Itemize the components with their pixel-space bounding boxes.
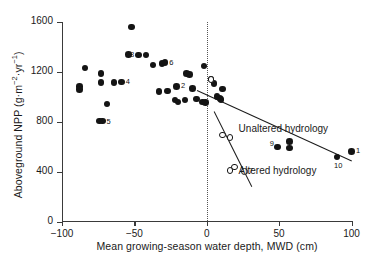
y-tick-label: 1200	[13, 65, 53, 76]
y-tick	[57, 22, 62, 23]
data-point-filled	[189, 85, 196, 92]
data-point-label: 2	[181, 81, 185, 90]
data-point-filled	[334, 154, 341, 161]
data-point-filled	[98, 70, 105, 77]
data-point-filled	[156, 88, 163, 95]
y-tick-label: 400	[13, 165, 53, 176]
data-point-filled	[143, 52, 150, 59]
y-tick-label: 800	[13, 115, 53, 126]
data-point-filled	[111, 79, 118, 86]
data-point-filled	[164, 88, 171, 95]
data-point-open	[227, 134, 234, 141]
data-point-filled	[150, 62, 157, 69]
x-tick	[207, 221, 208, 226]
scatter-chart-figure: Aboveground NPP (g·m−2·yr−1) Mean growin…	[0, 0, 371, 275]
x-tick	[352, 221, 353, 226]
data-point-filled	[135, 52, 142, 59]
data-point-label: 4	[126, 77, 130, 86]
annotation-altered-hydrology: Altered hydrology	[239, 165, 317, 176]
data-point-label: 6	[169, 58, 173, 67]
y-axis-title-sup2: −1	[10, 55, 19, 64]
y-tick	[57, 72, 62, 73]
data-point-label: 10	[334, 161, 342, 170]
data-point-open	[227, 167, 234, 174]
data-point-filled	[286, 145, 293, 152]
data-point-filled	[99, 118, 106, 125]
x-tick	[134, 221, 135, 226]
x-tick-label: 100	[334, 228, 370, 239]
data-point-filled	[286, 138, 293, 145]
data-point-filled	[274, 144, 281, 151]
data-point-open	[219, 132, 226, 139]
data-point-filled	[82, 65, 89, 72]
data-point-filled	[202, 99, 209, 106]
data-point-label: 5	[107, 117, 111, 126]
data-point-filled	[175, 99, 182, 106]
x-axis-title: Mean growing-season water depth, MWD (cm…	[62, 240, 352, 252]
data-point-filled	[98, 79, 105, 86]
data-point-label: 1	[356, 146, 360, 155]
data-point-filled	[182, 97, 189, 104]
y-axis-line	[62, 22, 63, 222]
y-tick	[57, 122, 62, 123]
y-tick	[57, 172, 62, 173]
y-axis-title-post: )	[12, 51, 24, 55]
data-point-filled	[173, 83, 180, 90]
x-tick	[62, 221, 63, 226]
reference-line-x0	[207, 22, 208, 221]
x-tick-label: 50	[261, 228, 297, 239]
data-point-filled	[348, 148, 355, 155]
x-tick	[279, 221, 280, 226]
x-tick-label: 0	[189, 228, 225, 239]
data-point-label: 9	[270, 139, 274, 148]
data-point-filled	[162, 59, 169, 66]
y-axis-title-sup1: −2	[10, 76, 19, 85]
y-tick	[57, 222, 62, 223]
data-point-filled	[118, 79, 125, 86]
data-point-filled	[128, 24, 135, 31]
y-tick-label: 0	[13, 215, 53, 226]
y-tick-label: 1600	[13, 15, 53, 26]
x-tick-label: −100	[44, 228, 80, 239]
data-point-filled	[219, 86, 226, 93]
x-tick-label: −50	[116, 228, 152, 239]
annotation-unaltered-hydrology: Unaltered hydrology	[239, 123, 329, 134]
data-point-filled	[76, 86, 83, 93]
data-point-filled	[186, 71, 193, 78]
data-point-filled	[104, 101, 111, 108]
data-point-label: 8	[130, 50, 134, 59]
y-axis-title-pre: Aboveground NPP (g·m	[12, 85, 24, 198]
